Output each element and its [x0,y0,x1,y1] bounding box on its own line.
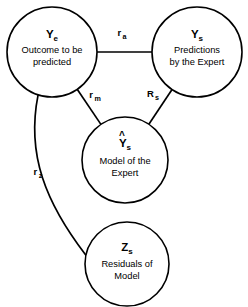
node-ys[interactable]: Ys Predictions by the Expert [152,7,242,97]
node-label-zs-line2: Model [114,271,139,281]
diagram-canvas: Ye Outcome to be predicted Ys Prediction… [0,0,248,307]
node-label-ys-line2: by the Expert [170,57,225,67]
edge-label-Rs: Rs [147,88,159,102]
edge-label-rz: rz [34,166,43,180]
edge-label-ra: ra [117,27,127,41]
node-label-ys-line1: Predictions [174,45,220,55]
node-zs[interactable]: Zs Residuals of Model [85,222,169,306]
edge-label-rm: rm [89,89,101,103]
node-label-ye-line1: Outcome to be [22,45,83,55]
node-ye[interactable]: Ye Outcome to be predicted [7,7,97,97]
node-label-yhat-s-line1: Model of the [99,156,150,166]
node-yhat-s[interactable]: ^ Ys Model of the Expert [82,117,168,203]
node-label-yhat-s-line2: Expert [112,168,139,178]
diagram-svg: Ye Outcome to be predicted Ys Prediction… [0,0,248,307]
node-label-ye-line2: predicted [33,57,71,67]
node-label-zs-line1: Residuals of [101,259,153,269]
